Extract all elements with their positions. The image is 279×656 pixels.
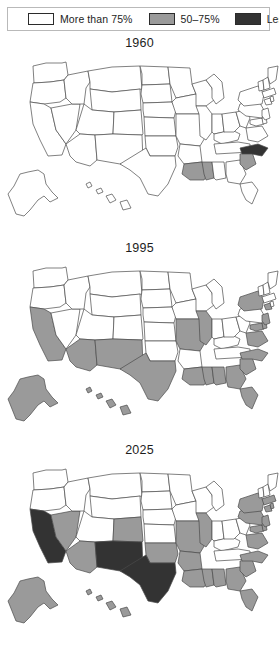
state-hi-island-3 (106, 399, 116, 408)
state-wy (90, 294, 141, 317)
legend-item-less-than-50: Less than 50% (235, 13, 279, 25)
state-co (113, 110, 143, 135)
state-va (246, 331, 268, 347)
state-ks (144, 322, 176, 341)
state-hi-island-4 (120, 200, 131, 210)
state-ne (143, 307, 176, 323)
legend-label-less-than-50: Less than 50% (267, 13, 279, 25)
state-or (30, 285, 66, 309)
map-panel-2025: 2025 (0, 441, 279, 656)
state-nd (140, 473, 170, 492)
state-ar (178, 349, 202, 369)
state-al (212, 367, 226, 385)
state-hi-island-2 (96, 188, 103, 194)
state-ok (145, 136, 178, 156)
state-sd (141, 84, 172, 103)
state-ak (8, 375, 58, 421)
us-map-2025 (0, 451, 279, 645)
state-me (268, 271, 278, 289)
state-ri (270, 301, 274, 307)
state-co (113, 517, 143, 542)
state-mt (88, 271, 142, 297)
state-ri (270, 503, 274, 509)
state-or (30, 487, 66, 511)
state-mn (168, 67, 196, 98)
state-hi-island-2 (96, 393, 103, 399)
state-fl (240, 182, 258, 204)
state-fl (240, 387, 258, 409)
state-or (30, 80, 66, 104)
state-hi-island-4 (120, 607, 131, 617)
state-me (268, 66, 278, 84)
legend-item-50-to-75: 50–75% (149, 13, 220, 25)
state-mt (88, 66, 142, 92)
state-ar (178, 144, 202, 164)
map-panel-1995: 1995 (0, 239, 279, 441)
state-id (64, 478, 90, 511)
state-hi-island-1 (86, 387, 92, 393)
legend-item-more-than-75: More than 75% (28, 13, 133, 25)
legend: More than 75% 50–75% Less than 50% (7, 7, 270, 31)
state-ne (143, 509, 176, 525)
state-sd (141, 289, 172, 308)
us-map-1995 (0, 249, 279, 443)
state-nd (140, 66, 170, 85)
state-hi-island-4 (120, 405, 131, 415)
state-az (66, 134, 97, 166)
us-map-1960 (0, 44, 279, 238)
state-ar (178, 551, 202, 571)
state-ks (144, 524, 176, 543)
legend-label-more-than-75: More than 75% (60, 13, 133, 25)
state-ak (8, 170, 58, 216)
state-al (212, 569, 226, 587)
state-id (64, 71, 90, 104)
state-va (246, 126, 268, 142)
state-ok (145, 543, 178, 563)
state-ak (8, 577, 58, 623)
state-ri (270, 96, 274, 102)
state-co (113, 315, 143, 340)
state-fl (240, 589, 258, 611)
state-nd (140, 271, 170, 290)
state-az (66, 339, 97, 371)
state-az (66, 541, 97, 573)
state-wy (90, 496, 141, 519)
legend-swatch-white (28, 13, 54, 25)
state-wy (90, 89, 141, 112)
legend-swatch-gray (149, 13, 175, 25)
state-mn (168, 272, 196, 303)
state-al (212, 162, 226, 180)
legend-label-50-to-75: 50–75% (181, 13, 220, 25)
state-me (268, 473, 278, 491)
state-ok (145, 341, 178, 361)
state-hi-island-3 (106, 194, 116, 203)
state-hi-island-3 (106, 601, 116, 610)
legend-swatch-black (235, 13, 261, 25)
state-mn (168, 474, 196, 505)
state-ne (143, 102, 176, 118)
map-panel-1960: 1960 (0, 34, 279, 239)
state-va (246, 533, 268, 549)
state-sd (141, 491, 172, 510)
state-mt (88, 473, 142, 499)
state-ks (144, 117, 176, 136)
state-hi-island-1 (86, 182, 92, 188)
state-hi-island-1 (86, 589, 92, 595)
state-id (64, 276, 90, 309)
state-hi-island-2 (96, 595, 103, 601)
